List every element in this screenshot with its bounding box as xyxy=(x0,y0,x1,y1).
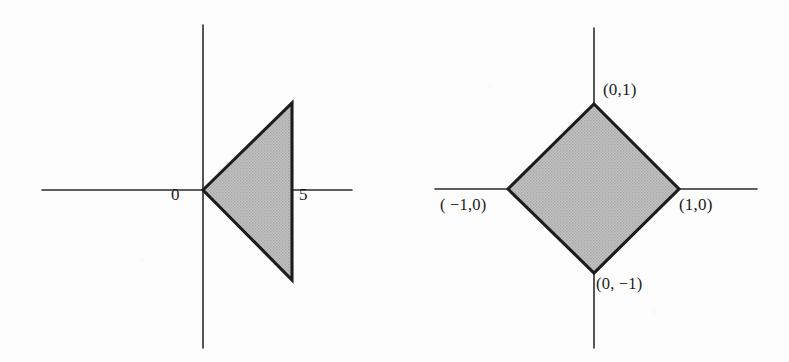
triangle-region-panel: 0 5 xyxy=(0,0,395,362)
triangle-shape xyxy=(203,103,292,280)
vertex-label-top: (0,1) xyxy=(603,81,637,98)
x-tick-label-5: 5 xyxy=(299,186,308,203)
triangle-region-svg xyxy=(0,0,395,362)
vertex-label-left: ( −1,0) xyxy=(440,197,486,214)
vertex-label-bottom: (0, −1) xyxy=(596,276,642,293)
diamond-shape xyxy=(508,104,679,273)
diamond-region-svg xyxy=(395,0,789,362)
vertex-label-right: (1,0) xyxy=(679,196,713,213)
diamond-region-panel: (0,1) ( −1,0) (1,0) (0, −1) xyxy=(395,0,789,362)
origin-label: 0 xyxy=(171,186,180,203)
figure-sheet: 0 5 xyxy=(0,0,789,362)
